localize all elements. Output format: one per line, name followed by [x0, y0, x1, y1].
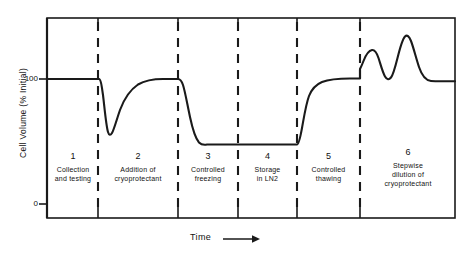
phase-4-line1: Storage [241, 165, 294, 174]
phase-block-4: 4 Storage in LN2 [241, 152, 294, 183]
phase-divider-lines [98, 22, 360, 214]
y-axis-tick-label-0: 0 [14, 199, 38, 208]
bottom-frame-ticks [98, 207, 360, 218]
phase-1-line1: Collection [50, 165, 96, 174]
phase-6-line1: Stepwise [364, 161, 452, 170]
plot-frame [47, 18, 455, 218]
cell-volume-curve [47, 36, 455, 145]
top-frame-ticks [98, 18, 360, 29]
phase-block-3: 3 Controlled freezing [181, 152, 235, 183]
phase-2-line1: Addition of [103, 165, 173, 174]
phase-5-line2: thawing [300, 174, 357, 183]
phase-block-2: 2 Addition of cryoprotectant [103, 152, 173, 183]
phase-block-1: 1 Collection and testing [50, 152, 96, 183]
phase-3-line1: Controlled [181, 165, 235, 174]
phase-6-line3: cryoprotectant [364, 179, 452, 188]
plot-canvas [0, 0, 465, 255]
cryopreservation-cell-volume-figure: Cell Volume (% Initial) 100 0 Time [0, 0, 465, 255]
phase-2-number: 2 [103, 152, 173, 161]
phase-1-number: 1 [50, 152, 96, 161]
phase-3-number: 3 [181, 152, 235, 161]
phase-1-line2: and testing [50, 174, 96, 183]
x-axis-title: Time [190, 232, 211, 242]
phase-2-line2: cryoprotectant [103, 174, 173, 183]
time-arrow-icon [223, 235, 260, 243]
phase-block-6: 6 Stepwise dilution of cryoprotectant [364, 148, 452, 188]
y-axis-title: Cell Volume (% Initial) [18, 38, 28, 188]
phase-6-number: 6 [364, 148, 452, 157]
phase-4-line2: in LN2 [241, 174, 294, 183]
phase-3-line2: freezing [181, 174, 235, 183]
phase-4-number: 4 [241, 152, 294, 161]
y-axis-tick-label-100: 100 [14, 74, 38, 83]
phase-6-line2: dilution of [364, 170, 452, 179]
phase-5-number: 5 [300, 152, 357, 161]
phase-block-5: 5 Controlled thawing [300, 152, 357, 183]
phase-5-line1: Controlled [300, 165, 357, 174]
